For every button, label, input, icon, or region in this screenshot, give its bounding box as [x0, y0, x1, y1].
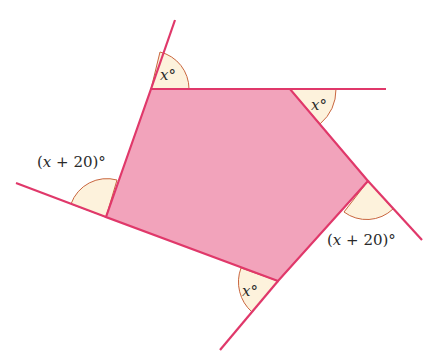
angle-label-bottom: x°	[242, 282, 258, 300]
pentagon-shape	[106, 89, 368, 281]
angle-label-top-right: x°	[311, 96, 327, 114]
angle-label-right: (x + 20)°	[327, 231, 396, 249]
angle-label-left: (x + 20)°	[37, 153, 106, 171]
pentagon-diagram: x° x° (x + 20)° x° (x + 20)°	[0, 0, 434, 361]
angle-label-top-left: x°	[160, 66, 176, 84]
